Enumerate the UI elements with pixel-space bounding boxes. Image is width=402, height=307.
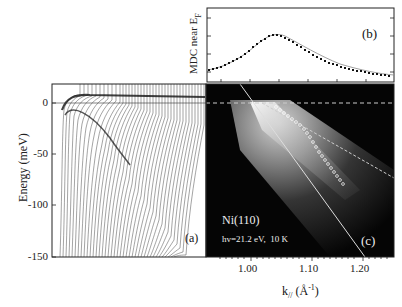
panel-b-ylabel: MDC near EF — [187, 0, 202, 89]
conditions-label: hv=21.2 eV, 10 K — [222, 234, 288, 244]
xtick-1.10: 1.10 — [299, 262, 318, 274]
ytick-0: 0 — [30, 96, 48, 108]
panel-a-label: (a) — [185, 231, 198, 246]
panel-c-xlabel: k// (Å-1) — [282, 283, 319, 300]
panel-a-yticks — [52, 103, 56, 257]
panel-b-label: (b) — [362, 26, 377, 42]
xtick-1.20: 1.20 — [350, 262, 369, 274]
ytick-minus100: -100 — [18, 198, 48, 210]
xtick-1.00: 1.00 — [238, 262, 257, 274]
ytick-minus150: -150 — [18, 250, 48, 262]
panel-c-xticks — [220, 257, 387, 261]
ytick-minus50: -50 — [22, 147, 48, 159]
panel-a-edc-stack — [60, 84, 204, 257]
panel-c-label: (c) — [361, 233, 375, 249]
sample-label: Ni(110) — [222, 213, 260, 228]
panel-c-heatmap — [206, 84, 394, 257]
